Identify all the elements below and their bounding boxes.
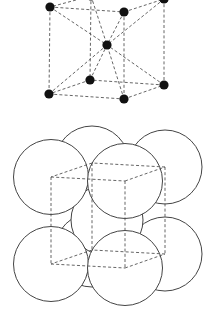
cube-edge (90, 80, 164, 85)
corner-atom (85, 75, 94, 84)
corner-atom (159, 80, 168, 89)
cube-edge (49, 94, 124, 99)
body-diagonal (50, 7, 107, 45)
cube-edge (50, 0, 91, 7)
body-diagonal (107, 0, 164, 45)
top-cell-atoms (44, 0, 168, 104)
cube-edge (49, 80, 90, 94)
cube-edge (124, 0, 164, 12)
corner-atom (86, 0, 95, 1)
bcc-ball-and-stick-diagram (0, 0, 212, 326)
cube-edge (90, 0, 91, 80)
cube-edge (49, 7, 50, 94)
body-diagonal (91, 0, 107, 45)
corner-atom (44, 89, 53, 98)
cube-edge (50, 7, 124, 12)
corner-atom (45, 2, 54, 11)
body-diagonal (90, 45, 107, 80)
corner-atom (119, 94, 128, 103)
cube-edge (124, 85, 164, 99)
body-diagonal (107, 45, 164, 85)
corner-atom (119, 7, 128, 16)
body-center-atom (102, 40, 111, 49)
body-diagonal (107, 12, 124, 45)
body-diagonal (107, 45, 124, 99)
body-diagonal (49, 45, 107, 94)
corner-atom (159, 0, 168, 4)
